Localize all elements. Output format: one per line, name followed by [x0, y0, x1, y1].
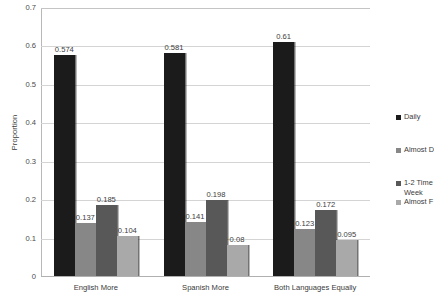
y-tick-label: 0.5 — [10, 81, 36, 89]
bar-value-label: 0.123 — [295, 219, 314, 228]
bar-value-label: 0.198 — [206, 190, 225, 199]
legend-item[interactable]: Almost F — [396, 197, 433, 207]
bar[interactable]: 0.095 — [336, 240, 357, 277]
legend-swatch-icon — [396, 115, 401, 120]
legend-swatch-icon — [396, 200, 401, 205]
legend-label: Daily — [404, 112, 420, 122]
bar[interactable]: 0.61 — [273, 42, 294, 276]
bar[interactable]: 0.123 — [294, 229, 315, 276]
bar-value-label: 0.172 — [316, 200, 335, 209]
y-tick-label: 0.2 — [10, 196, 36, 204]
bar-value-label: 0.141 — [185, 212, 204, 221]
bar-value-label: 0.185 — [97, 195, 116, 204]
bar[interactable]: 0.08 — [227, 245, 248, 276]
y-axis-line — [41, 8, 42, 277]
bar-chart: Proportion 00.10.20.30.40.50.60.7 0.5740… — [0, 0, 434, 304]
bar-group: 0.5810.1410.1980.08 — [164, 8, 248, 276]
bar-value-label: 0.137 — [76, 213, 95, 222]
bar-value-label: 0.08 — [230, 235, 245, 244]
bar[interactable]: 0.581 — [164, 53, 185, 276]
bar[interactable]: 0.574 — [54, 55, 75, 276]
legend-item[interactable]: Daily — [396, 112, 420, 122]
bar[interactable]: 0.104 — [117, 236, 138, 276]
legend-label: Almost F — [404, 197, 433, 207]
legend-swatch-icon — [396, 181, 401, 186]
y-tick-label: 0.7 — [10, 4, 36, 12]
bar[interactable]: 0.185 — [96, 205, 117, 276]
bar[interactable]: 0.137 — [75, 223, 96, 276]
bar[interactable]: 0.172 — [315, 210, 336, 276]
bar-group: 0.610.1230.1720.095 — [273, 8, 357, 276]
y-tick-label: 0 — [10, 273, 36, 281]
legend-swatch-icon — [396, 148, 401, 153]
y-tick-label: 0.6 — [10, 42, 36, 50]
bar-value-label: 0.581 — [164, 43, 183, 52]
plot-area: 0.5740.1370.1850.1040.5810.1410.1980.080… — [41, 8, 370, 277]
y-tick-label: 0.3 — [10, 158, 36, 166]
bar-group: 0.5740.1370.1850.104 — [54, 8, 138, 276]
legend-item[interactable]: Almost D — [396, 145, 434, 155]
bar-value-label: 0.574 — [55, 45, 74, 54]
legend-label: 1-2 TimeWeek — [404, 178, 433, 197]
bar-value-label: 0.104 — [118, 226, 137, 235]
legend-item[interactable]: 1-2 TimeWeek — [396, 178, 433, 197]
category-label: Spanish More — [182, 283, 229, 292]
category-label: Both Languages Equally — [274, 283, 356, 292]
bar-value-label: 0.095 — [337, 230, 356, 239]
category-label: English More — [74, 283, 118, 292]
bar-value-label: 0.61 — [276, 32, 291, 41]
y-tick-label: 0.4 — [10, 119, 36, 127]
bar[interactable]: 0.141 — [185, 222, 206, 276]
y-tick-label: 0.1 — [10, 235, 36, 243]
legend-label: Almost D — [404, 145, 434, 155]
y-axis-tick-labels: 00.10.20.30.40.50.60.7 — [8, 0, 36, 304]
x-axis-line — [41, 276, 370, 277]
bar[interactable]: 0.198 — [206, 200, 227, 276]
